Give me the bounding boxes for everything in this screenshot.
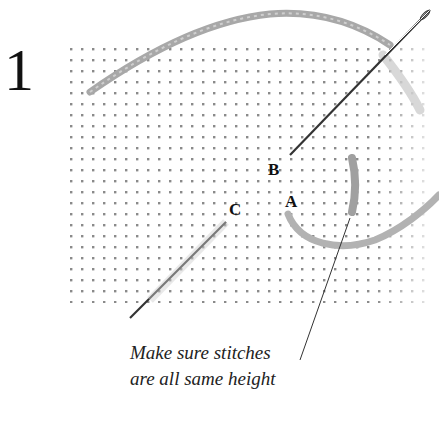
canvas-mesh [62, 48, 430, 303]
caption-line-2: are all same height [130, 366, 275, 392]
point-label-a: A [285, 192, 297, 212]
point-label-c: C [229, 200, 241, 220]
caption: Make sure stitches are all same height [130, 340, 275, 392]
point-label-b: B [268, 160, 279, 180]
caption-line-1: Make sure stitches [130, 340, 275, 366]
